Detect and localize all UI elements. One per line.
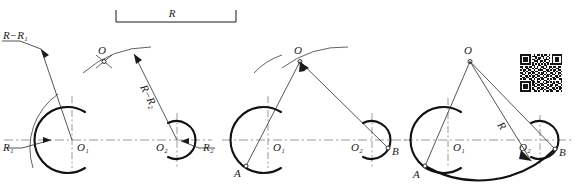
qr-code [520,54,562,92]
line-o-to-b-step2 [300,62,388,149]
point-o-marker-step1 [102,60,106,64]
label-o-step1: O [98,44,106,56]
step-1-locate-center [2,41,215,173]
construction-arc-right-step2 [282,47,348,68]
point-b-marker-step3 [553,147,557,151]
label-o-step3: O [464,44,472,56]
label-o2-step3: O₂ [519,141,531,153]
leader-r-minus-r1 [2,41,41,49]
label-o2-step1: O₂ [156,141,168,153]
label-b-step3: B [559,146,566,158]
tangent-arc-radius-r [425,149,555,180]
step-2-mark-tangent-points [222,47,410,173]
arrowhead-r2 [181,138,189,144]
label-a-step2: A [233,167,241,179]
radius-line-o1-step1 [41,49,72,140]
dimension-label-R: R [168,7,176,19]
label-o1-step1: O₁ [77,141,89,153]
point-a-marker-step2 [244,164,248,168]
label-o2-step2: O₂ [351,141,363,153]
label-r-step3: R [495,119,509,132]
label-o1-step2: O₁ [273,141,285,153]
construction-arc-r-minus-r1 [30,94,58,168]
label-r1-step1: R₁ [2,141,14,153]
technical-drawing-svg: R R−R₁ R−R₂ O O₁ O₂ R₁ R₂ O O₁ O₂ A B O … [0,0,578,194]
qr-code-canvas [520,54,562,92]
construction-arc-left-step2 [254,55,282,73]
label-r-minus-r1: R−R₁ [2,29,28,41]
label-o-step2: O [294,44,302,56]
point-a-marker-step3 [423,164,427,168]
arrowhead-r1 [43,137,51,143]
label-b-step2: B [392,145,399,157]
point-b-marker-step2 [386,146,390,150]
drawing-canvas: R R−R₁ R−R₂ O O₁ O₂ R₁ R₂ O O₁ O₂ A B O … [0,0,578,194]
arrowhead-r-minus-r2 [134,54,142,64]
dimension-bracket-R [116,10,236,22]
label-r-minus-r2: R−R₂ [138,82,160,110]
label-o1-step3: O₁ [453,141,465,153]
label-a-step3: A [412,168,420,180]
label-r2-step1: R₂ [202,141,214,153]
